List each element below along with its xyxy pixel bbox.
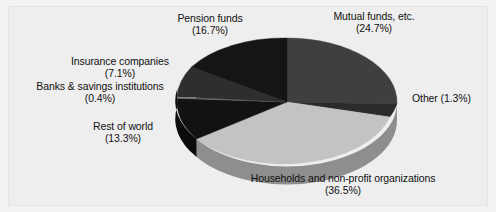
- label-pension-funds-name: Pension funds: [177, 12, 242, 24]
- pie-chart-figure: Pension funds (16.7%) Mutual funds, etc.…: [0, 0, 496, 212]
- label-pension-funds: Pension funds (16.7%): [148, 12, 272, 37]
- label-other: Other (1.3%): [412, 92, 492, 104]
- label-banks-savings-institutions: Banks & savings institutions (0.4%): [6, 80, 194, 105]
- label-pension-funds-percent: (16.7%): [148, 24, 272, 36]
- label-rest-of-world-name: Rest of world: [93, 120, 153, 132]
- label-households: Households and non-profit organizations …: [218, 172, 468, 197]
- label-rest-of-world-percent: (13.3%): [60, 132, 186, 144]
- label-rest-of-world: Rest of world (13.3%): [60, 120, 186, 145]
- pie-slices-top-face: [177, 38, 397, 164]
- label-mutual-funds-percent: (24.7%): [306, 22, 442, 34]
- label-banks-savings-institutions-percent: (0.4%): [6, 92, 194, 104]
- slice-mutual-funds: [287, 38, 397, 104]
- label-households-percent: (36.5%): [218, 184, 468, 196]
- label-insurance-companies-percent: (7.1%): [46, 67, 194, 79]
- label-mutual-funds: Mutual funds, etc. (24.7%): [306, 10, 442, 35]
- label-mutual-funds-name: Mutual funds, etc.: [333, 10, 414, 22]
- label-households-name: Households and non-profit organizations: [251, 172, 436, 184]
- label-banks-savings-institutions-name: Banks & savings institutions: [36, 80, 163, 92]
- label-other-name: Other (1.3%): [412, 92, 471, 104]
- label-insurance-companies: Insurance companies (7.1%): [46, 55, 194, 80]
- label-insurance-companies-name: Insurance companies: [71, 55, 169, 67]
